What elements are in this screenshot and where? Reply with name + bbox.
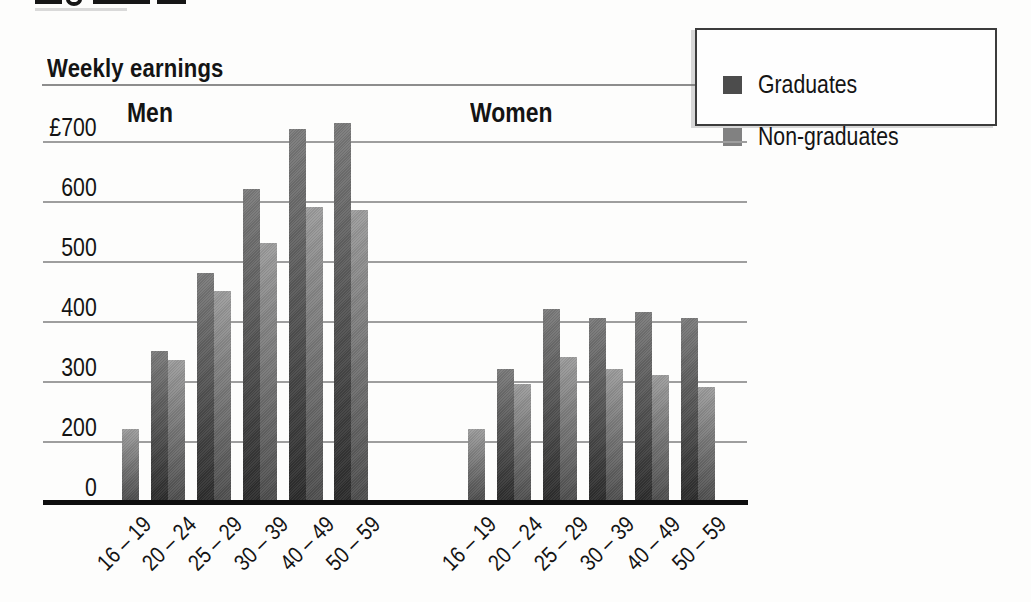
y-tick-label-200: 200: [62, 414, 97, 440]
bar-men-20-24-non-graduates: [168, 360, 185, 501]
y-tick-label-300: 300: [62, 354, 97, 380]
bar-men-30-39-graduates: [243, 189, 260, 501]
y-tick-label-400: 400: [62, 294, 97, 320]
gridline-700: [43, 141, 747, 143]
bar-men-20-24-graduates: [151, 351, 168, 501]
bar-women-50-59-non-graduates: [698, 387, 715, 501]
bar-women-50-59-graduates: [681, 318, 698, 501]
bar-men-25-29-graduates: [197, 273, 214, 501]
y-tick-label-700: £700: [50, 114, 97, 140]
bar-men-30-39-non-graduates: [260, 243, 277, 501]
bar-men-25-29-non-graduates: [214, 291, 231, 501]
bar-women-20-24-non-graduates: [514, 384, 531, 501]
y-tick-label-600: 600: [62, 174, 97, 200]
y-tick-label-0: 0: [85, 474, 97, 500]
bar-men-40-49-non-graduates: [306, 207, 323, 501]
plot-area: £700600500400300200016 – 1920 – 2425 – 2…: [0, 0, 1031, 602]
bar-women-25-29-non-graduates: [560, 357, 577, 501]
bar-women-30-39-graduates: [589, 318, 606, 501]
bar-women-30-39-non-graduates: [606, 369, 623, 501]
gridline-500: [43, 261, 747, 263]
bar-women-40-49-non-graduates: [652, 375, 669, 501]
scanned-bar-chart-figure: Weekly earnings GraduatesNon-graduates M…: [0, 0, 1031, 602]
bar-men-16-19-non-graduates: [122, 429, 139, 501]
x-axis-line: [43, 500, 748, 505]
bar-women-40-49-graduates: [635, 312, 652, 501]
gridline-600: [43, 201, 747, 203]
bar-women-16-19-non-graduates: [468, 429, 485, 501]
bar-women-25-29-graduates: [543, 309, 560, 501]
bar-men-40-49-graduates: [289, 129, 306, 501]
bar-women-20-24-graduates: [497, 369, 514, 501]
bar-men-50-59-graduates: [334, 123, 351, 501]
bar-men-50-59-non-graduates: [351, 210, 368, 501]
y-tick-label-500: 500: [62, 234, 97, 260]
